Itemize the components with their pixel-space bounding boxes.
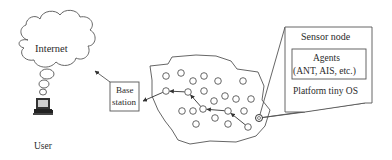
sensor-node <box>222 93 229 100</box>
sensor-node <box>225 108 232 115</box>
sensor-node-title: Sensor node <box>301 32 350 42</box>
agents-label: Agents <box>313 54 340 64</box>
sensor-network-diagram <box>0 0 392 160</box>
base-to-internet-arrow <box>95 71 110 82</box>
platform-label: Platform tiny OS <box>293 87 358 97</box>
internet-label: Internet <box>35 44 68 55</box>
sensor-node <box>185 89 192 96</box>
sensor-node <box>245 124 252 131</box>
sensor-node <box>240 78 247 85</box>
sensor-node <box>163 88 170 95</box>
sensor-node <box>190 108 197 115</box>
sensor-node <box>178 70 185 77</box>
sensor-node <box>179 108 186 115</box>
user-computer-icon <box>33 98 53 115</box>
sensor-node <box>163 73 170 80</box>
agents-examples-label: (ANT, AIS, etc.) <box>293 67 356 77</box>
sensor-node <box>212 115 219 122</box>
sensor-node <box>241 108 248 115</box>
sensor-node <box>201 73 208 80</box>
sensor-node <box>201 88 208 95</box>
sensor-node <box>200 106 207 113</box>
highlighted-sensor-node <box>256 115 263 122</box>
connection-bubbles <box>39 69 54 95</box>
base-station-label-line2: station <box>112 98 136 107</box>
base-station-label-line1: Base <box>116 86 134 95</box>
sensor-node <box>248 96 255 103</box>
sensor-node <box>225 121 232 128</box>
sensor-node <box>190 78 197 85</box>
user-label: User <box>34 142 52 152</box>
internet-cloud-icon <box>19 10 95 67</box>
sensor-node <box>233 96 240 103</box>
sensor-node <box>211 98 218 105</box>
sensor-node <box>215 78 222 85</box>
sensor-node <box>193 121 200 128</box>
